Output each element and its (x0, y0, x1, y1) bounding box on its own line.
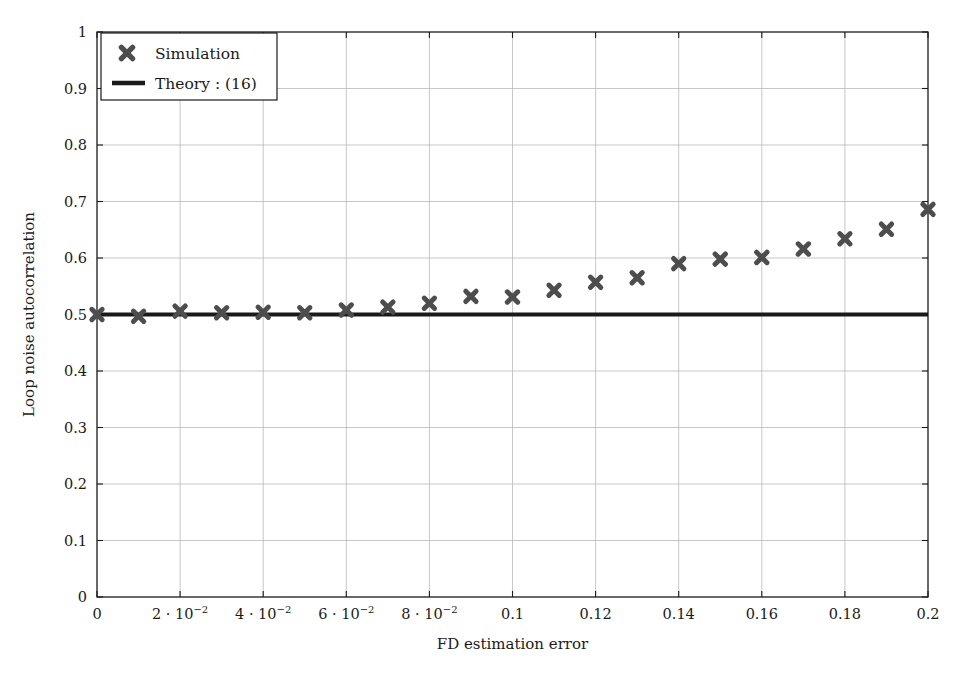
y-tick-label: 0.5 (64, 307, 87, 323)
chart-background (0, 0, 960, 684)
x-tick-label: 0.14 (663, 606, 695, 622)
x-tick-label: 0.18 (829, 606, 861, 622)
legend-label: Theory : (16) (155, 75, 257, 93)
y-tick-label: 0.2 (64, 476, 87, 492)
y-tick-label: 0.6 (64, 250, 87, 266)
x-tick-label: 0.12 (579, 606, 611, 622)
x-axis-title: FD estimation error (437, 635, 589, 653)
y-tick-label: 1 (78, 24, 87, 40)
legend-label: Simulation (155, 45, 240, 63)
x-tick-label: 0.1 (501, 606, 524, 622)
y-axis-title: Loop noise autocorrelation (20, 212, 38, 417)
chart-figure: 02 · 10−24 · 10−26 · 10−28 · 10−20.10.12… (0, 0, 960, 684)
x-tick-label: 0.16 (746, 606, 778, 622)
x-tick-label: 0.2 (916, 606, 939, 622)
y-tick-label: 0.4 (64, 363, 87, 379)
y-tick-label: 0 (78, 589, 87, 605)
y-tick-label: 0.7 (64, 194, 87, 210)
y-tick-label: 0.8 (64, 137, 87, 153)
scatter-chart: 02 · 10−24 · 10−26 · 10−28 · 10−20.10.12… (0, 0, 960, 684)
y-tick-label: 0.3 (64, 420, 87, 436)
y-tick-label: 0.1 (64, 533, 87, 549)
y-tick-label: 0.9 (64, 81, 87, 97)
x-tick-label: 0 (92, 606, 101, 622)
legend: SimulationTheory : (16) (101, 33, 277, 100)
